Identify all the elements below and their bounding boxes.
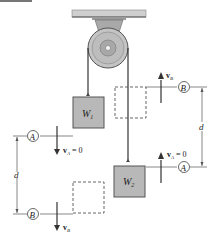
arrow-down-va-left-icon (54, 126, 60, 155)
arrow-down-vb-left-icon (54, 202, 60, 231)
dimension-right-label: d (199, 122, 204, 132)
hook-w1 (86, 93, 90, 96)
dashed-box-w2-initial (73, 182, 104, 213)
vb-right-label: vB (166, 71, 173, 81)
axle-icon (106, 46, 111, 51)
vb-left-label: vB (63, 223, 70, 233)
pulley-wheel (88, 28, 128, 68)
va-right-label: vA= 0 (167, 150, 187, 160)
ceiling (72, 10, 146, 20)
position-a-right-label: A (180, 163, 187, 173)
dimension-left-label: d (14, 170, 19, 180)
arrow-up-va-right-icon (158, 152, 164, 183)
position-b-right-label: B (181, 83, 187, 93)
dashed-box-w1-final (115, 87, 146, 118)
pulley-diagram: W1 W2 A vA= 0 B d vB B (0, 0, 219, 249)
position-b-left-label: B (30, 210, 36, 220)
top-left-bar (0, 0, 32, 2)
hook-w2 (126, 159, 130, 162)
arrow-up-vb-right-icon (158, 72, 164, 103)
va-left-label: vA= 0 (63, 146, 83, 156)
position-a-left-label: A (29, 132, 36, 142)
